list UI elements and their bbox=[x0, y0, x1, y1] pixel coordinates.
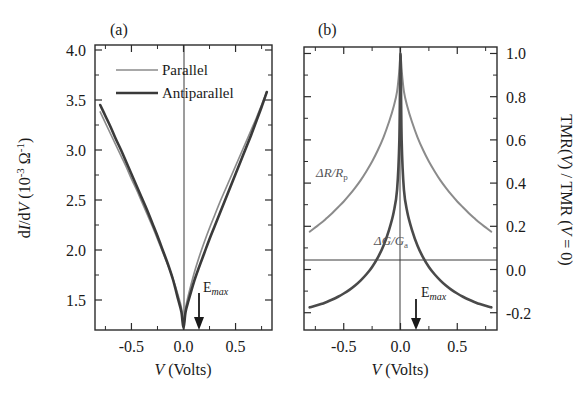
figure-svg: (a) 4.03.53.02.52.01.5 -0.50.00.5 Parall… bbox=[0, 0, 577, 413]
y-tick-label: 2.5 bbox=[66, 192, 86, 209]
x-tick-label: 0.5 bbox=[447, 338, 467, 355]
y-tick-label: 1.0 bbox=[506, 45, 526, 62]
x-tick-label: -0.5 bbox=[119, 338, 144, 355]
figure-background bbox=[0, 0, 577, 413]
y-tick-label: 1.5 bbox=[66, 292, 86, 309]
x-tick-label: 0.5 bbox=[226, 338, 246, 355]
panel-b-tag: (b) bbox=[318, 21, 337, 39]
y-tick-label: 0.4 bbox=[506, 175, 526, 192]
y-tick-label: 0.6 bbox=[506, 132, 526, 149]
y-tick-label: 4.0 bbox=[66, 42, 86, 59]
panel-a-x-axis-title: V (Volts) bbox=[154, 361, 211, 379]
y-tick-label: 3.5 bbox=[66, 92, 86, 109]
figure-root: (a) 4.03.53.02.52.01.5 -0.50.00.5 Parall… bbox=[0, 0, 577, 413]
panel-a-tag: (a) bbox=[110, 21, 128, 39]
panel-a-y-axis-title: dI/dV (10-3 Ω-1) bbox=[14, 138, 34, 238]
x-tick-label: 0.0 bbox=[391, 338, 411, 355]
panel-b-x-axis-title: V (Volts) bbox=[371, 361, 428, 379]
annotation-dg-ga: ΔG/Ga bbox=[373, 233, 408, 250]
x-tick-label: 0.0 bbox=[174, 338, 194, 355]
legend-label-parallel: Parallel bbox=[162, 62, 208, 78]
y-tick-label: -0.2 bbox=[506, 305, 531, 322]
y-tick-label: 0.0 bbox=[506, 262, 526, 279]
y-tick-label: 2.0 bbox=[66, 242, 86, 259]
legend-label-antiparallel: Antiparallel bbox=[162, 85, 234, 101]
panel-b-y-axis-title: TMR(V) / TMR (V = 0) bbox=[557, 114, 575, 265]
x-tick-label: -0.5 bbox=[331, 338, 356, 355]
y-tick-label: 0.8 bbox=[506, 89, 526, 106]
y-tick-label: 0.2 bbox=[506, 218, 526, 235]
y-tick-label: 3.0 bbox=[66, 142, 86, 159]
